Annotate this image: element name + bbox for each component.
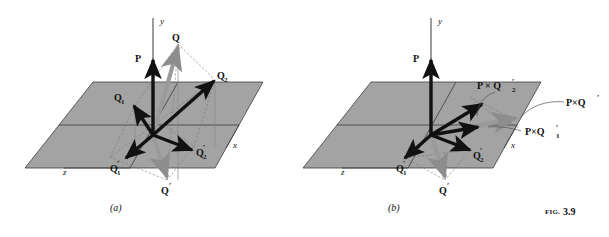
axis-label-a-x: x xyxy=(232,140,237,150)
vector-label-b-PxQ1prime-tick: ′ xyxy=(556,124,558,133)
vector-label-b-PxQ2prime-base: P × Q xyxy=(477,80,501,91)
vector-label-a-Q2prime-sub: 2 xyxy=(203,153,207,161)
vector-label-a-Q1prime-sub: 1 xyxy=(117,169,121,177)
vector-label-a-P: P xyxy=(135,53,141,64)
vector-label-b-P: P xyxy=(413,53,419,64)
axis-label-b-y: y xyxy=(437,16,442,26)
vector-label-a-Q: Q xyxy=(172,32,180,43)
vector-label-b-Q2prime-tick: ′ xyxy=(480,147,482,156)
vector-label-b-PxQ1prime-base: P×Q xyxy=(525,126,545,137)
axis-label-b-x: x xyxy=(510,140,515,150)
figure-caption-prefix: FIG. xyxy=(545,208,560,216)
panel-a-caption: (a) xyxy=(110,202,122,214)
panel-b-caption: (b) xyxy=(388,202,400,214)
vector-label-b-Q2prime-sub: 2 xyxy=(480,156,484,164)
vector-label-b-PxQprime-tick: ′ xyxy=(597,94,599,103)
vector-label-b-Qprime-tick: ′ xyxy=(447,182,449,191)
axis-label-b-z: z xyxy=(340,167,345,177)
vector-label-b-Q1prime-sub: 1 xyxy=(403,169,407,177)
figure-caption: FIG. 3.9 xyxy=(545,206,576,217)
axis-label-a-y: y xyxy=(159,16,164,26)
vector-label-a-Qprime-tick: ′ xyxy=(169,182,171,191)
vector-label-a-Q2-sub: 2 xyxy=(224,76,228,84)
vector-label-b-PxQ2prime-tick: ′ xyxy=(512,78,514,87)
figure-3-9: y x z P Q Q 1 Q 2 Q 1 ′ Q 2 ′ Q ′ (a) xyxy=(0,0,609,237)
figure-caption-number: 3.9 xyxy=(563,206,576,217)
vector-label-a-Q2prime-tick: ′ xyxy=(203,144,205,153)
vector-label-a-Q1-sub: 1 xyxy=(121,98,125,106)
vector-label-a-Q1prime-tick: ′ xyxy=(117,160,119,169)
vector-label-b-Q1prime-tick: ′ xyxy=(403,160,405,169)
vector-label-a-Qprime-base: Q xyxy=(161,185,169,196)
vector-label-b-PxQ1prime-sub: 1 xyxy=(556,132,560,140)
vector-label-b-PxQprime-base: P×Q xyxy=(566,97,586,108)
vector-label-b-Qprime-base: Q xyxy=(439,185,447,196)
vector-label-b-PxQ2prime-sub: 2 xyxy=(512,86,516,94)
axis-label-a-z: z xyxy=(62,167,67,177)
